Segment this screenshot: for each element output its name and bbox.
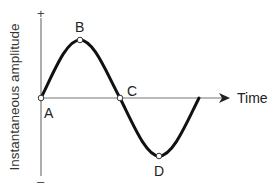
point-d-label: D [154,164,164,178]
point-b-label: B [75,20,84,34]
point-b-marker [77,37,83,43]
point-d-marker [156,153,162,159]
y-positive-sign: + [37,7,45,20]
point-c-label: C [127,84,137,98]
y-negative-sign: – [37,175,44,188]
y-axis-label: Instantaneous amplitude [7,23,22,170]
point-c-marker [117,95,123,101]
point-a-label: A [44,106,53,120]
sine-wave-diagram [0,0,277,189]
point-a-marker [38,95,44,101]
x-axis-label: Time [237,91,268,105]
